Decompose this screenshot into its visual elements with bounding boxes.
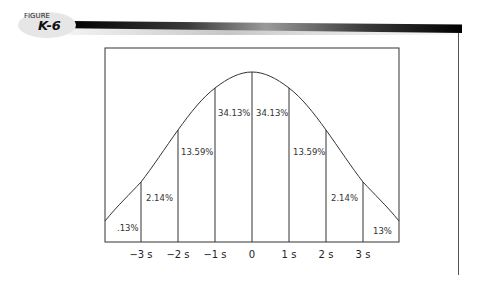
region-label: 2.14%	[331, 193, 358, 203]
region-label: 34.13%	[218, 108, 250, 118]
x-tick-label: −3 s	[129, 249, 152, 260]
x-tick-label: 3 s	[356, 249, 371, 260]
normal-distribution-chart: .13% 2.14% 13.59% 34.13% 34.13% 13.59% 2…	[0, 0, 483, 281]
x-tick-label: −2 s	[166, 249, 189, 260]
x-tick-label: 2 s	[319, 249, 334, 260]
x-tick-label: 0	[249, 249, 255, 260]
region-label: 13%	[373, 226, 392, 236]
sd-dividers	[141, 72, 363, 242]
region-label: 2.14%	[146, 193, 173, 203]
x-tick-label: −1 s	[203, 249, 226, 260]
region-label: .13%	[117, 223, 139, 233]
x-tick-label: 1 s	[282, 249, 297, 260]
region-label: 34.13%	[256, 108, 288, 118]
region-label: 13.59%	[181, 147, 213, 157]
region-label: 13.59%	[293, 147, 325, 157]
